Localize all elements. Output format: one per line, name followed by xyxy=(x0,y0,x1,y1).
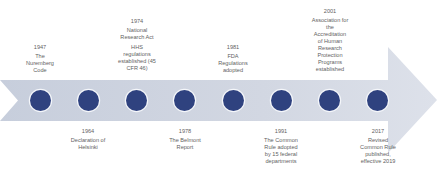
event-text: CFR 46) xyxy=(107,65,167,72)
event-year: 1991 xyxy=(251,128,311,135)
event-text: Association for xyxy=(300,17,360,24)
event-text: Research xyxy=(300,45,360,52)
event-text: Programs xyxy=(300,59,360,66)
event-year: 2017 xyxy=(348,128,408,135)
event-year: 1974 xyxy=(107,18,167,25)
event-text: published, xyxy=(348,151,408,158)
timeline-marker-2001 xyxy=(319,90,340,111)
timeline-marker-2017 xyxy=(367,90,388,111)
event-year: 1978 xyxy=(155,128,215,135)
event-label-1978: 1978 The Belmont Report xyxy=(155,128,215,151)
event-label-1974: 1974 National Research Act HHS regulatio… xyxy=(107,18,167,72)
event-text: Protection xyxy=(300,52,360,59)
event-year: 2001 xyxy=(300,8,360,15)
event-text: effective 2019 xyxy=(348,158,408,165)
event-text: Rule adopted xyxy=(251,144,311,151)
event-text: Helsinki xyxy=(58,144,118,151)
timeline-marker-1974 xyxy=(126,90,147,111)
timeline-marker-1981 xyxy=(223,90,244,111)
event-year: 1964 xyxy=(58,128,118,135)
event-text: Common Rule xyxy=(348,144,408,151)
event-text: of Human xyxy=(300,38,360,45)
event-text: departments xyxy=(251,158,311,165)
event-text: The Belmont xyxy=(155,137,215,144)
event-text: Report xyxy=(155,144,215,151)
event-year: 1947 xyxy=(10,44,70,51)
event-text: The Common xyxy=(251,137,311,144)
event-text: Code xyxy=(10,67,70,74)
event-text: adopted xyxy=(203,67,263,74)
event-text: Accreditation xyxy=(300,31,360,38)
timeline-marker-1964 xyxy=(78,90,99,111)
event-text: The xyxy=(10,53,70,60)
event-text: established xyxy=(300,66,360,73)
event-text: Regulations xyxy=(203,60,263,67)
event-text: regulations xyxy=(107,51,167,58)
event-text: by 15 federal xyxy=(251,151,311,158)
event-text: HHS xyxy=(107,44,167,51)
event-text: FDA xyxy=(203,53,263,60)
event-text: National xyxy=(107,27,167,34)
event-label-1981: 1981 FDA Regulations adopted xyxy=(203,44,263,74)
event-label-2001: 2001 Association for the Accreditation o… xyxy=(300,8,360,73)
event-text: Revised xyxy=(348,137,408,144)
event-label-1947: 1947 The Nuremberg Code xyxy=(10,44,70,74)
event-text: Research Act xyxy=(107,34,167,41)
event-text: Declaration of xyxy=(58,137,118,144)
timeline-marker-1978 xyxy=(174,90,195,111)
timeline-diagram: 1947 The Nuremberg Code 1974 National Re… xyxy=(0,0,437,173)
event-label-2017: 2017 Revised Common Rule published, effe… xyxy=(348,128,408,165)
event-label-1991: 1991 The Common Rule adopted by 15 feder… xyxy=(251,128,311,165)
event-text: the xyxy=(300,24,360,31)
event-text: established (45 xyxy=(107,58,167,65)
event-text: Nuremberg xyxy=(10,60,70,67)
event-label-1964: 1964 Declaration of Helsinki xyxy=(58,128,118,151)
timeline-marker-1947 xyxy=(30,90,51,111)
event-year: 1981 xyxy=(203,44,263,51)
timeline-marker-1991 xyxy=(271,90,292,111)
